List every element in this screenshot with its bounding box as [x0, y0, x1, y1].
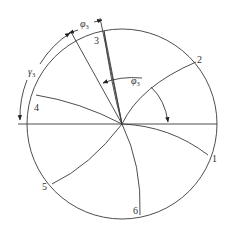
- phi3-top-label: φ3: [80, 18, 89, 30]
- blade-curve-1: [122, 124, 208, 155]
- gamma3-dimension-arc-lower: [20, 80, 27, 120]
- radial-line-3: [100, 18, 122, 124]
- point-label-4: 4: [34, 102, 39, 113]
- blade-curve-4: [36, 95, 122, 124]
- point-label-2: 2: [197, 54, 202, 65]
- phi3-top-arrow-left: [69, 30, 78, 33]
- point-label-3: 3: [94, 35, 99, 46]
- point-label-6: 6: [133, 205, 138, 216]
- gamma3-label: γ3: [28, 66, 35, 78]
- blade-profile-diagram: 1 2 3 4 5 6 φ3 φ3 γ3: [0, 0, 230, 230]
- blade-curve-2: [122, 62, 196, 124]
- blade-curve-5: [52, 124, 122, 184]
- gamma3-dimension-arc: [40, 33, 70, 64]
- right-angle-arrow: [151, 87, 168, 122]
- blade-curve-6: [122, 124, 140, 215]
- point-label-1: 1: [212, 153, 217, 164]
- phi3-mid-label: φ3: [131, 75, 140, 87]
- point-label-5: 5: [42, 181, 47, 192]
